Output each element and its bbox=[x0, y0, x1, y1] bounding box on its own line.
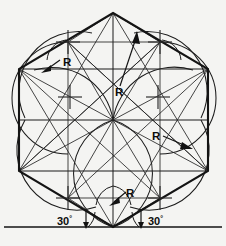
radius-label-R3: R bbox=[152, 130, 161, 142]
construction-diagram: R R R R 30° 30° bbox=[0, 0, 226, 246]
radius-label-R4: R bbox=[126, 187, 135, 199]
radius-label-R2: R bbox=[115, 86, 124, 98]
technical-drawing-canvas: R R R R 30° 30° bbox=[0, 0, 226, 246]
radius-label-R1: R bbox=[63, 56, 72, 68]
